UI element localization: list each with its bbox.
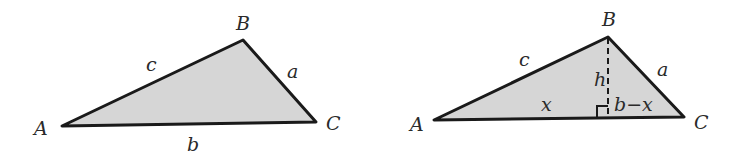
segment-x-label: x (541, 93, 552, 115)
left-triangle: A B C c a b (32, 12, 341, 155)
right-triangle: A B C c a h x b−x (408, 8, 709, 135)
left-triangle-shape (62, 40, 316, 126)
right-vertex-c-label: C (694, 111, 709, 133)
left-side-a-label: a (287, 60, 298, 82)
left-side-c-label: c (146, 53, 157, 75)
right-side-a-label: a (657, 58, 668, 80)
right-vertex-a-label: A (408, 113, 424, 135)
left-vertex-b-label: B (235, 12, 250, 34)
left-side-b-label: b (187, 133, 199, 155)
right-side-c-label: c (519, 48, 530, 70)
left-vertex-a-label: A (32, 117, 48, 139)
height-label: h (594, 68, 606, 90)
left-vertex-c-label: C (326, 112, 341, 134)
segment-b-minus-x-label: b−x (614, 93, 653, 115)
triangle-diagrams: A B C c a b A B C c a h x b−x (0, 0, 742, 156)
right-vertex-b-label: B (601, 8, 616, 30)
